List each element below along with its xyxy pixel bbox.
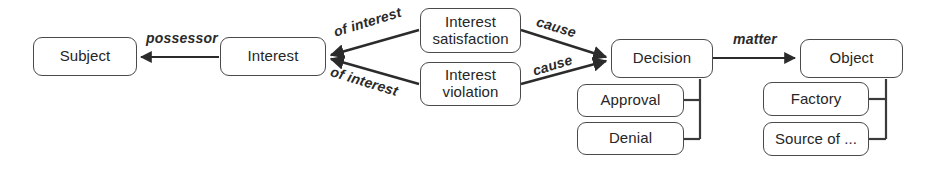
- node-object-label: Object: [830, 50, 874, 67]
- edge-label-cause-upper: cause: [535, 13, 579, 40]
- edge-label-of-interest-lower: of interest: [329, 63, 401, 99]
- edge-label-possessor: possessor: [146, 30, 218, 46]
- node-denial-label: Denial: [609, 130, 652, 147]
- node-source-of-label: Source of ...: [775, 131, 857, 148]
- node-interest-satisfaction[interactable]: Interest satisfaction: [420, 8, 521, 53]
- node-interest-violation[interactable]: Interest violation: [420, 62, 521, 106]
- node-approval-label: Approval: [600, 92, 660, 109]
- node-interest[interactable]: Interest: [220, 37, 326, 76]
- node-interest-label: Interest: [248, 48, 299, 65]
- edge-label-of-interest-upper: of interest: [332, 4, 404, 40]
- node-factory-label: Factory: [791, 91, 842, 108]
- node-object[interactable]: Object: [800, 39, 903, 78]
- node-subject-label: Subject: [60, 48, 111, 65]
- node-interest-satisfaction-label-line1: Interest: [445, 14, 496, 31]
- edge-label-cause-lower: cause: [531, 51, 575, 78]
- edge-label-matter: matter: [733, 31, 777, 47]
- node-interest-violation-label-line1: Interest: [445, 67, 496, 84]
- node-approval[interactable]: Approval: [577, 84, 684, 117]
- node-denial[interactable]: Denial: [577, 122, 684, 155]
- node-subject[interactable]: Subject: [33, 37, 137, 76]
- diagram-canvas: Subject Interest Interest satisfaction I…: [0, 0, 938, 172]
- node-source-of[interactable]: Source of ...: [763, 122, 869, 156]
- node-interest-violation-label-line2: violation: [443, 84, 499, 101]
- node-decision-label: Decision: [633, 50, 691, 67]
- node-interest-satisfaction-label-line2: satisfaction: [432, 31, 508, 48]
- node-decision[interactable]: Decision: [611, 39, 713, 78]
- node-factory[interactable]: Factory: [763, 82, 869, 116]
